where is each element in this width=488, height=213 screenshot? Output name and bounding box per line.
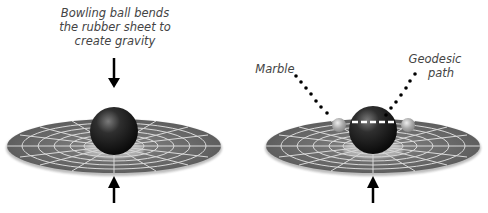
arrow-up-icon <box>367 176 379 203</box>
geodesic-label-line-2: path <box>405 66 465 80</box>
geodesic-label-line-1: Geodesic <box>405 52 465 66</box>
caption-line-2: the rubber sheet to <box>54 20 176 34</box>
geodesic-label: Geodesic path <box>405 52 465 80</box>
marble-right <box>401 118 415 132</box>
marble-dotted-leader <box>294 74 329 115</box>
arrow-down-icon <box>108 58 120 88</box>
caption-line-1: Bowling ball bends <box>54 6 176 20</box>
marble-left <box>332 118 346 132</box>
left-caption: Bowling ball bends the rubber sheet to c… <box>54 6 176 48</box>
marble-label: Marble <box>250 62 300 76</box>
arrow-up-icon <box>108 176 120 203</box>
right-panel <box>265 72 481 203</box>
left-panel <box>6 58 222 203</box>
bowling-ball-left <box>90 107 138 155</box>
bowling-ball-right <box>349 106 397 154</box>
gravity-diagram: Bowling ball bends the rubber sheet to c… <box>0 0 488 213</box>
caption-line-3: create gravity <box>54 34 176 48</box>
